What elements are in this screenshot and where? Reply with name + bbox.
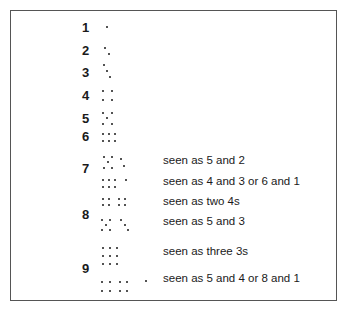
caption: seen as two 4s [163,196,240,208]
caption: seen as 4 and 3 or 6 and 1 [163,176,300,188]
row-label: 9 [82,262,89,275]
row-label: 1 [82,21,89,34]
row-label: 5 [82,112,89,125]
row-label: 8 [82,208,89,221]
row-label: 4 [82,89,89,102]
row-label: 2 [82,44,89,57]
caption: seen as 5 and 2 [163,155,245,167]
row-label: 6 [82,130,89,143]
caption: seen as 5 and 4 or 8 and 1 [163,273,300,285]
row-label: 3 [82,66,89,79]
caption: seen as 5 and 3 [163,216,245,228]
caption: seen as three 3s [163,246,248,258]
row-label: 7 [82,162,89,175]
